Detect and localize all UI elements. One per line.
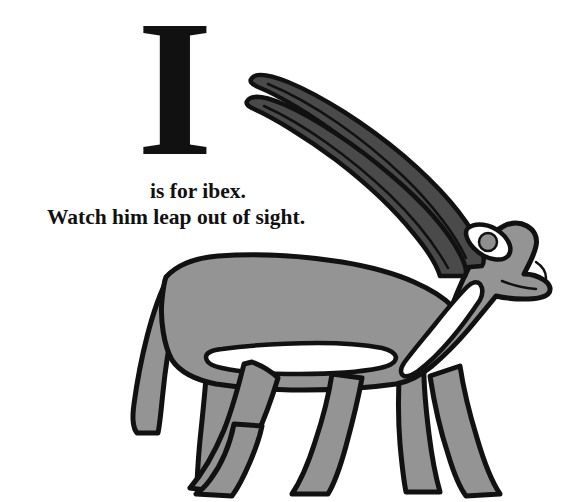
caption-line-1: is for ibex. [0, 178, 352, 204]
ibex-eye-iris [479, 233, 497, 251]
ibex-leg-rear-right [430, 366, 500, 496]
page-canvas: .body-fill { fill: #949494; stroke: #111… [0, 0, 570, 502]
ibex-illustration: .body-fill { fill: #949494; stroke: #111… [0, 0, 570, 502]
initial-letter-i: I [110, 2, 240, 174]
caption-line-2: Watch him leap out of sight. [0, 204, 352, 230]
caption-block: is for ibex. Watch him leap out of sight… [0, 178, 352, 230]
ibex-belly-stripe [206, 343, 396, 374]
